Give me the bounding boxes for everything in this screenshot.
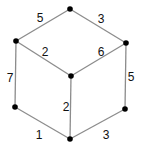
node-upper-right bbox=[123, 40, 129, 46]
node-center bbox=[68, 73, 74, 79]
edge-weight-label: 2 bbox=[42, 45, 49, 59]
cube-graph-diagram: 532675213 bbox=[0, 0, 142, 149]
edge-upper-left-lower-left bbox=[15, 41, 16, 107]
node-top bbox=[67, 6, 73, 12]
edge-weight-label: 5 bbox=[128, 70, 135, 84]
edge-weight-label: 1 bbox=[36, 128, 43, 142]
node-upper-left bbox=[13, 38, 19, 44]
edge-weight-label: 6 bbox=[98, 45, 105, 59]
edge-center-bottom bbox=[70, 76, 71, 139]
edge-weight-label: 5 bbox=[37, 11, 44, 25]
edge-weight-label: 2 bbox=[63, 100, 70, 114]
edge-weight-label: 3 bbox=[98, 12, 105, 26]
edge-upper-right-lower-right bbox=[125, 43, 126, 109]
node-lower-left bbox=[12, 104, 18, 110]
node-bottom bbox=[67, 136, 73, 142]
node-lower-right bbox=[122, 106, 128, 112]
edge-weight-label: 3 bbox=[103, 128, 110, 142]
edge-weight-label: 7 bbox=[7, 71, 14, 85]
edge-bottom-lower-right bbox=[70, 109, 125, 139]
